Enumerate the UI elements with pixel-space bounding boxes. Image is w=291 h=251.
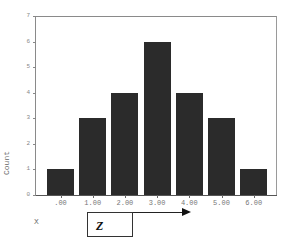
z-annotation-box: Z — [87, 212, 133, 237]
x-tick-mark — [254, 195, 255, 198]
x-axis-line — [35, 195, 277, 196]
y-tick-label: 4 — [20, 89, 30, 96]
bar — [176, 93, 203, 195]
y-tick-mark — [33, 144, 36, 145]
arrow-line — [133, 212, 183, 213]
y-tick-label: 1 — [20, 165, 30, 172]
x-axis-label: X — [34, 217, 39, 226]
x-tick-label: 6.00 — [239, 199, 269, 207]
arrow-right-icon — [182, 208, 191, 216]
x-tick-label: 3.00 — [142, 199, 172, 207]
x-tick-mark — [125, 195, 126, 198]
x-tick-label: 5.00 — [207, 199, 237, 207]
bar — [111, 93, 138, 195]
z-label: Z — [96, 219, 103, 234]
x-tick-label: 1.00 — [78, 199, 108, 207]
y-tick-mark — [33, 42, 36, 43]
y-tick-mark — [33, 195, 36, 196]
x-tick-label: 4.00 — [174, 199, 204, 207]
y-axis-label: Count — [2, 151, 11, 175]
x-tick-mark — [157, 195, 158, 198]
bar — [240, 169, 267, 195]
histogram-chart: 01234567 .001.002.003.004.005.006.00 Cou… — [0, 0, 291, 251]
y-tick-mark — [33, 67, 36, 68]
y-tick-mark — [33, 118, 36, 119]
y-tick-label: 0 — [20, 191, 30, 198]
y-tick-mark — [33, 93, 36, 94]
y-tick-label: 3 — [20, 114, 30, 121]
x-tick-label: .00 — [46, 199, 76, 207]
bar — [79, 118, 106, 195]
x-tick-mark — [61, 195, 62, 198]
y-tick-label: 5 — [20, 63, 30, 70]
y-tick-label: 6 — [20, 38, 30, 45]
y-tick-label: 2 — [20, 140, 30, 147]
bar — [47, 169, 74, 195]
bar — [144, 42, 171, 195]
x-tick-mark — [189, 195, 190, 198]
y-tick-mark — [33, 169, 36, 170]
y-tick-label: 7 — [20, 12, 30, 19]
x-tick-label: 2.00 — [110, 199, 140, 207]
bar — [208, 118, 235, 195]
x-tick-mark — [93, 195, 94, 198]
x-tick-mark — [222, 195, 223, 198]
y-tick-mark — [33, 16, 36, 17]
